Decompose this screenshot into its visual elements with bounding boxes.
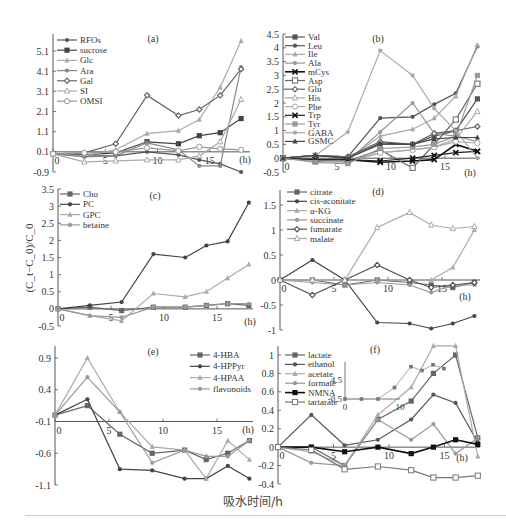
legend: ValLeuIleAlamCysAspGluHisPheTrpTyrGABAGS… (285, 32, 334, 146)
series--KG (277, 227, 477, 282)
y-tick-label: -0.1 (35, 416, 51, 427)
y-tick-label: 3 (49, 201, 54, 212)
data-point-marker (375, 445, 380, 450)
data-point-marker (309, 447, 314, 452)
data-point-marker (309, 413, 313, 417)
inset-data-point (343, 397, 347, 401)
series-cis-aconitate (278, 258, 477, 331)
data-point-marker (226, 239, 230, 243)
data-point-marker (145, 141, 149, 145)
legend-swatch-marker (197, 352, 202, 357)
data-point-marker (411, 73, 415, 77)
legend-item: malate (287, 234, 334, 244)
legend-swatch-marker (65, 69, 69, 73)
data-point-marker (453, 475, 458, 480)
y-tick-label: 4.1 (37, 66, 50, 77)
legend-swatch-marker (68, 223, 72, 227)
data-point-marker (375, 464, 380, 469)
y-tick-label: 3.5 (267, 56, 280, 67)
legend-swatch-marker (292, 121, 297, 126)
data-point-marker (176, 157, 181, 162)
data-point-marker (197, 133, 202, 138)
data-point-marker (472, 314, 476, 318)
data-point-marker (450, 225, 455, 230)
x-unit-label: (h) (464, 167, 476, 179)
shared-x-axis-label: 吸水时间/h (0, 492, 506, 509)
legend-label: Glc (80, 55, 93, 65)
y-tick-label: 1.5 (267, 111, 280, 122)
x-unit-label: (h) (244, 316, 256, 328)
data-point-marker (239, 38, 244, 43)
y-tick-label: 0.5 (264, 250, 277, 261)
data-point-marker (375, 320, 379, 324)
data-point-marker (239, 96, 244, 101)
data-point-marker (82, 150, 87, 155)
y-tick-label: -0.9 (33, 167, 49, 178)
legend-swatch-marker (292, 390, 297, 395)
data-point-marker (247, 438, 251, 442)
legend-swatch-marker (292, 399, 297, 404)
legend-label: 4-HPAA (213, 373, 245, 383)
legend-swatch-marker (65, 38, 69, 42)
legend-label: 4-HBA (213, 350, 240, 360)
chart-panel-c: 3.532.521.510.50-0.5051015(h)(c)ChoPCGPC… (23, 184, 256, 332)
y-tick-label: -1.1 (35, 480, 51, 491)
data-point-marker (431, 371, 436, 376)
y-tick-label: -0.4 (258, 479, 274, 490)
legend-swatch-marker (293, 381, 297, 385)
data-point-marker (197, 153, 202, 158)
data-point-marker (475, 473, 480, 478)
legend-swatch-marker (292, 352, 297, 357)
data-point-marker (119, 308, 124, 313)
x-unit-label: (h) (456, 452, 468, 464)
legend-swatch-marker (67, 191, 72, 196)
y-tick-label: -0.2 (258, 460, 274, 471)
x-unit-label: (h) (239, 154, 251, 166)
legend-swatch-marker (293, 44, 297, 48)
data-point-marker (429, 222, 434, 227)
data-point-marker (218, 84, 223, 89)
x-tick-label: 0 (285, 161, 290, 172)
y-tick-label: 5.1 (37, 46, 50, 57)
y-tick-label: 0.4 (39, 384, 52, 395)
data-point-marker (431, 393, 435, 397)
legend-swatch-marker (292, 34, 297, 39)
legend-label: PC (83, 199, 94, 209)
legend-swatch-marker (292, 78, 297, 83)
legend: 4-HBA4-HPPyr4-HPAAflavonoids (190, 350, 251, 394)
data-point-marker (375, 224, 380, 229)
y-tick-label: 0.4 (262, 405, 275, 416)
inset-x-tick-label: 0 (343, 402, 348, 412)
data-point-marker (113, 158, 118, 163)
data-point-marker (144, 145, 149, 150)
y-tick-label: -0.5 (263, 167, 279, 178)
y-tick-label: 1 (271, 225, 276, 236)
data-point-marker (85, 375, 89, 379)
legend-item: 4-HPAA (190, 373, 245, 383)
chart-panel-d: 1.510.50-0.5-1051015(h)(d)citratecis-aco… (260, 186, 480, 336)
data-point-marker (144, 157, 149, 162)
data-point-marker (275, 445, 280, 450)
data-point-marker (476, 436, 480, 440)
x-tick-label: 10 (159, 312, 169, 323)
legend-label: sucrose (80, 45, 107, 55)
data-point-marker (218, 164, 222, 168)
data-point-marker (376, 417, 380, 421)
panel-label: (b) (372, 33, 384, 45)
data-point-marker (88, 314, 92, 318)
inset-data-point (442, 367, 446, 371)
legend-item: betaine (60, 220, 109, 230)
data-point-marker (376, 438, 380, 442)
x-unit-label: (h) (242, 424, 254, 436)
y-tick-label: 1.5 (42, 252, 55, 263)
data-point-marker (343, 283, 347, 287)
data-point-marker (183, 448, 187, 452)
legend-swatch-marker (292, 95, 297, 100)
y-tick-label: -0.5 (260, 300, 276, 311)
data-point-marker (411, 101, 415, 105)
data-point-marker (453, 437, 458, 442)
data-point-marker (375, 412, 380, 417)
data-point-marker (475, 442, 480, 447)
data-point-marker (378, 48, 382, 52)
y-tick-label: 2 (49, 235, 54, 246)
